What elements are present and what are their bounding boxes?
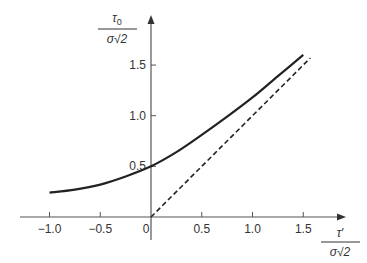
plot-series <box>50 55 311 217</box>
x-tick-label: −1.0 <box>38 222 62 236</box>
dashed-asymptote-line <box>151 58 310 217</box>
y-tick-label: 1.5 <box>129 58 146 72</box>
axes <box>20 15 346 240</box>
x-axis-label-denominator: σ√2 <box>330 245 351 259</box>
x-axis-label: τ′ σ√2 <box>321 226 360 259</box>
x-tick-label: −0.5 <box>88 222 112 236</box>
y-tick-label: 1.0 <box>129 109 146 123</box>
x-tick-label: 0 <box>143 222 150 236</box>
y-axis-label-numerator: τ0 <box>112 11 122 27</box>
solid-curve-line <box>50 55 304 193</box>
x-tick-label: 1.5 <box>295 222 312 236</box>
y-axis-label: τ0 σ√2 <box>98 11 137 46</box>
x-axis-label-numerator: τ′ <box>337 226 344 240</box>
axis-ticks: −1.0−0.500.51.01.50.51.01.5 <box>38 58 312 236</box>
x-tick-label: 1.0 <box>244 222 261 236</box>
x-axis-arrow-icon <box>337 214 346 221</box>
y-axis-label-denominator: σ√2 <box>107 32 128 46</box>
chart: −1.0−0.500.51.01.50.51.01.5 τ0 σ√2 τ′ σ√… <box>0 0 367 263</box>
y-axis-arrow-icon <box>148 15 155 24</box>
x-tick-label: 0.5 <box>193 222 210 236</box>
axis-labels: τ0 σ√2 τ′ σ√2 <box>98 11 360 259</box>
